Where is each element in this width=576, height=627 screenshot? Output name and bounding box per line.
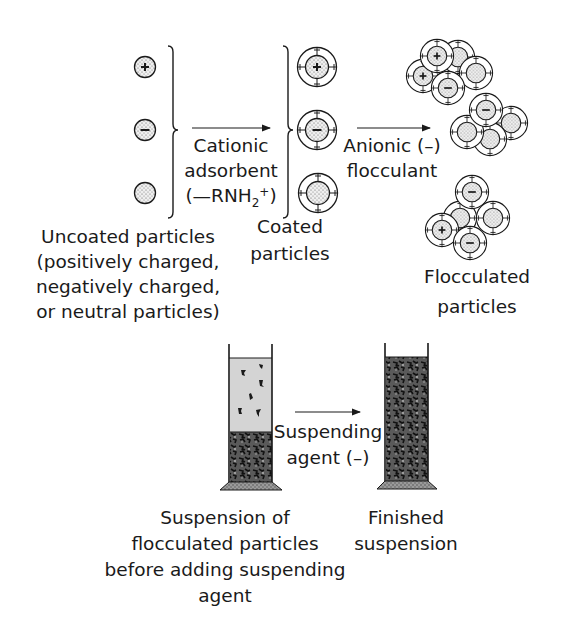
step1-formula: (—RNH2+) <box>185 185 276 210</box>
brace-left-icon <box>168 46 178 218</box>
svg-text:negatively charged,: negatively charged, <box>36 276 220 297</box>
flocculated-caption: Flocculated particles <box>424 266 530 317</box>
uncoated-particles-group <box>135 57 156 204</box>
right-cylinder-caption: Finished suspension <box>354 507 458 554</box>
svg-text:suspension: suspension <box>354 533 458 554</box>
svg-text:flocculated particles: flocculated particles <box>131 533 318 554</box>
svg-text:before adding suspending: before adding suspending <box>105 559 346 580</box>
uncoated-negative-particle-icon <box>135 120 156 141</box>
coated-caption: Coated particles <box>250 216 329 264</box>
svg-text:Finished: Finished <box>368 507 444 528</box>
step2-label-line1: Anionic (–) <box>343 135 440 156</box>
flocculation-diagram: Cationic adsorbent (—RNH2+) Anionic (–) … <box>0 0 576 627</box>
coated-positive-particle-icon <box>298 48 337 87</box>
left-cylinder-icon <box>220 344 282 490</box>
svg-text:Flocculated: Flocculated <box>424 266 530 287</box>
svg-text:agent: agent <box>198 585 251 606</box>
coated-particles-group <box>298 48 338 213</box>
svg-text:or neutral particles): or neutral particles) <box>36 301 219 322</box>
svg-text:Coated: Coated <box>257 216 323 237</box>
svg-text:Suspension of: Suspension of <box>160 507 290 528</box>
step2-label-line2: flocculant <box>347 160 438 181</box>
step3-label-line1: Suspending <box>274 421 382 442</box>
uncoated-positive-particle-icon <box>135 57 156 78</box>
floc-cluster-2-icon <box>450 93 527 155</box>
right-cylinder-icon <box>377 343 437 489</box>
step1-label-line1: Cationic <box>193 135 268 156</box>
step1-label-line2: adsorbent <box>184 160 278 181</box>
svg-text:particles: particles <box>250 243 329 264</box>
svg-text:Uncoated particles: Uncoated particles <box>41 226 215 247</box>
svg-text:(positively charged,: (positively charged, <box>36 251 219 272</box>
brace-right-icon <box>283 46 293 218</box>
coated-negative-particle-icon <box>298 111 337 150</box>
floc-cluster-3-icon <box>425 175 509 259</box>
left-cylinder-caption: Suspension of flocculated particles befo… <box>105 507 346 606</box>
uncoated-caption: Uncoated particles (positively charged, … <box>36 226 220 322</box>
coated-neutral-particle-icon <box>299 174 338 213</box>
step3-label-line2: agent (–) <box>286 447 369 468</box>
svg-text:particles: particles <box>437 296 516 317</box>
uncoated-neutral-particle-icon <box>135 183 156 204</box>
